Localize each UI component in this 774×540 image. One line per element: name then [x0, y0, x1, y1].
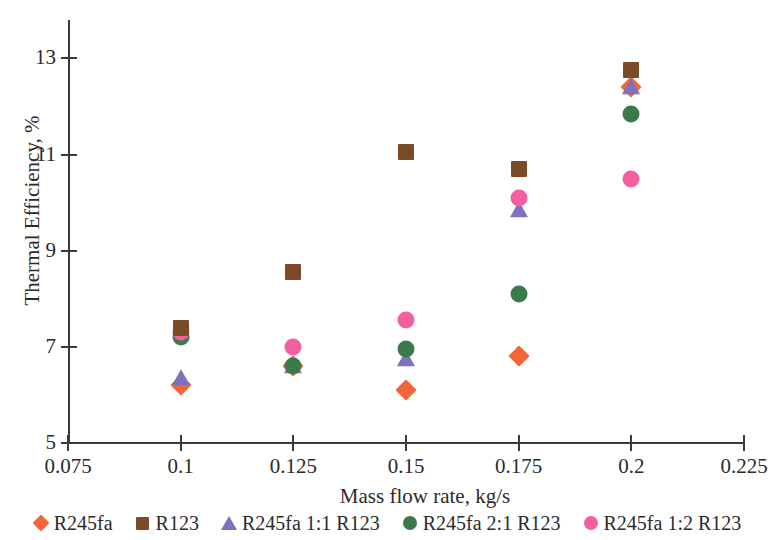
data-point — [622, 78, 640, 94]
x-tick-mark — [518, 435, 520, 451]
legend-item[interactable]: R245fa 2:1 R123 — [402, 513, 561, 533]
data-point — [510, 189, 527, 206]
data-point — [511, 161, 527, 177]
legend-marker-diamond-icon — [33, 515, 49, 531]
legend-marker-square-icon — [135, 515, 151, 531]
y-tick-mark — [61, 57, 77, 59]
x-axis-title: Mass flow rate, kg/s — [0, 484, 774, 509]
plot-area — [68, 20, 744, 443]
data-point — [398, 144, 414, 160]
legend-swatch-shape — [136, 517, 149, 530]
chart-legend: R245faR123R245fa 1:1 R123R245fa 2:1 R123… — [0, 508, 774, 538]
data-point — [510, 285, 527, 302]
data-point — [398, 341, 415, 358]
scatter-chart: 5791113 0.0750.10.1250.150.1750.20.225 T… — [0, 0, 774, 540]
data-point — [285, 338, 302, 355]
x-tick-label: 0.075 — [13, 455, 123, 477]
y-tick-mark — [61, 250, 77, 252]
x-tick-mark — [630, 435, 632, 451]
y-tick-mark — [61, 442, 77, 444]
data-point — [623, 170, 640, 187]
legend-label: R245fa 1:1 R123 — [242, 513, 380, 533]
legend-item[interactable]: R245fa 1:2 R123 — [583, 513, 742, 533]
data-point — [172, 369, 190, 385]
data-point — [623, 62, 639, 78]
y-tick-mark — [61, 346, 77, 348]
y-tick-mark — [61, 154, 77, 156]
x-tick-label: 0.225 — [689, 455, 774, 477]
legend-marker-triangle-icon — [221, 515, 237, 531]
legend-swatch-shape — [403, 516, 417, 530]
data-point — [623, 105, 640, 122]
x-tick-label: 0.15 — [351, 455, 461, 477]
y-axis-line — [68, 20, 70, 444]
data-point — [508, 346, 529, 367]
legend-label: R245fa 2:1 R123 — [423, 513, 561, 533]
x-tick-label: 0.1 — [126, 455, 236, 477]
data-point — [173, 320, 189, 336]
legend-marker-circle-icon — [583, 515, 599, 531]
x-tick-label: 0.125 — [238, 455, 348, 477]
x-tick-mark — [405, 435, 407, 451]
legend-label: R245fa — [54, 513, 113, 533]
legend-swatch-shape — [584, 516, 598, 530]
data-point — [285, 358, 302, 375]
legend-item[interactable]: R245fa — [33, 513, 113, 533]
x-tick-mark — [743, 435, 745, 451]
legend-label: R245fa 1:2 R123 — [604, 513, 742, 533]
data-point — [285, 264, 301, 280]
legend-marker-circle-icon — [402, 515, 418, 531]
legend-swatch-shape — [221, 516, 237, 530]
x-tick-mark — [67, 435, 69, 451]
data-point — [398, 312, 415, 329]
x-axis-title-text: Mass flow rate, kg/s — [340, 484, 510, 509]
y-tick-label: 5 — [16, 432, 56, 453]
x-tick-label: 0.175 — [464, 455, 574, 477]
legend-swatch-shape — [32, 515, 49, 532]
x-tick-mark — [180, 435, 182, 451]
legend-item[interactable]: R123 — [135, 513, 199, 533]
x-tick-label: 0.2 — [576, 455, 686, 477]
legend-item[interactable]: R245fa 1:1 R123 — [221, 513, 380, 533]
data-point — [395, 380, 416, 401]
x-tick-mark — [292, 435, 294, 451]
legend-label: R123 — [156, 513, 199, 533]
y-axis-title: Thermal Efficiency, % — [20, 61, 45, 361]
